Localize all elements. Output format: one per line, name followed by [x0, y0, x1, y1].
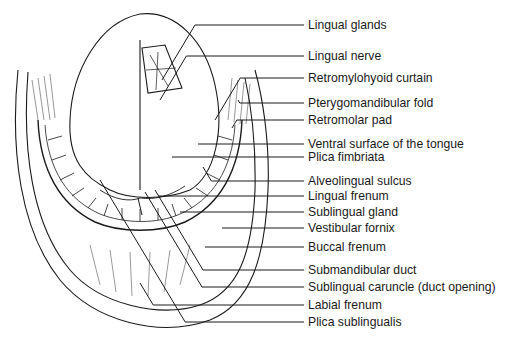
label-alveolingual-sulcus: Alveolingual sulcus — [308, 174, 412, 188]
leader-line — [100, 180, 304, 322]
label-vestibular-fornix: Vestibular fornix — [308, 221, 395, 235]
label-retromylohyoid-curtain: Retromylohyoid curtain — [308, 71, 433, 85]
label-retromolar-pad: Retromolar pad — [308, 113, 392, 127]
label-lingual-nerve: Lingual nerve — [308, 49, 381, 63]
label-sublingual-gland: Sublingual gland — [308, 205, 398, 219]
label-lingual-frenum: Lingual frenum — [308, 189, 389, 203]
leader-line — [140, 283, 304, 305]
label-labial-frenum: Labial frenum — [308, 298, 382, 312]
leader-line — [145, 192, 304, 287]
leader-line — [203, 167, 304, 181]
leader-line — [238, 100, 304, 103]
label-ventral-surface-of-the-tongue: Ventral surface of the tongue — [308, 137, 464, 151]
label-plica-sublingualis: Plica sublingualis — [308, 315, 402, 329]
label-sublingual-caruncle-duct-opening: Sublingual caruncle (duct opening) — [308, 280, 496, 294]
label-buccal-frenum: Buccal frenum — [308, 240, 386, 254]
leader-line — [215, 78, 304, 120]
label-plica-fimbriata: Plica fimbriata — [308, 150, 385, 164]
leader-line — [232, 120, 304, 128]
leader-line — [155, 190, 304, 270]
label-pterygomandibular-fold: Pterygomandibular fold — [308, 96, 433, 110]
label-submandibular-duct: Submandibular duct — [308, 263, 416, 277]
label-lingual-glands: Lingual glands — [308, 18, 387, 32]
leader-line — [162, 25, 304, 80]
